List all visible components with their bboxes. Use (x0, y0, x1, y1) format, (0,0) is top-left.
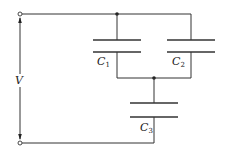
arrowhead-up-icon (18, 17, 22, 23)
c2-subscript: 2 (180, 61, 184, 69)
arrowhead-down-icon (18, 134, 22, 140)
c1-label: C1 (97, 56, 110, 69)
terminal-bottom-icon (18, 141, 22, 145)
c3-subscript: 3 (148, 127, 152, 135)
circuit-diagram: V C1 C2 C3 (0, 0, 231, 154)
voltage-symbol: V (15, 74, 23, 87)
circuit-svg (0, 0, 231, 154)
terminal-top-icon (18, 12, 22, 16)
c3-label: C3 (140, 122, 153, 135)
c2-label: C2 (172, 56, 185, 69)
voltage-label: V (15, 75, 23, 86)
c1-subscript: 1 (105, 61, 109, 69)
